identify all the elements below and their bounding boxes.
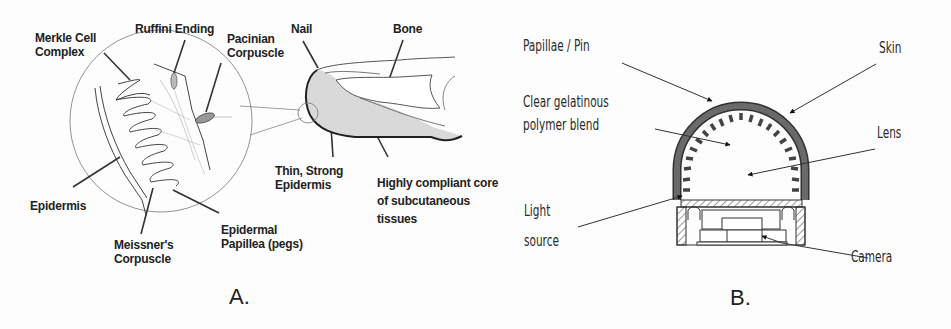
label-camera: Camera — [851, 246, 892, 269]
label-epidermal-papillea: Epidermal Papillea (pegs) — [221, 223, 303, 251]
fingertip-drawing — [298, 57, 462, 140]
label-compliant-core: Highly compliant core of subcutaneous ti… — [377, 174, 498, 228]
pacinian-corpuscle — [194, 111, 216, 125]
diagram-drawing — [0, 0, 951, 329]
sensor-drawing — [677, 106, 805, 245]
ruffini-ending — [171, 73, 177, 89]
label-bone: Bone — [393, 22, 422, 36]
label-clear-gelatinous-polymer: Clear gelatinous polymer blend — [523, 91, 609, 137]
label-ruffini-ending: Ruffini Ending — [135, 22, 214, 36]
label-pacinian-corpuscle: Pacinian Corpuscle — [227, 32, 284, 60]
panel-a-caption: A. — [229, 284, 250, 310]
label-papillae-pin: Papillae / Pin — [523, 35, 590, 58]
label-epidermis: Epidermis — [30, 199, 86, 213]
panel-b-caption: B. — [730, 285, 751, 311]
label-merkle-cell-complex: Merkle Cell Complex — [35, 31, 96, 59]
label-lens: Lens — [877, 122, 901, 145]
label-meissners-corpuscle: Meissner's Corpuscle — [114, 238, 174, 266]
label-thin-strong-epidermis: Thin, Strong Epidermis — [275, 164, 343, 192]
label-nail: Nail — [291, 22, 312, 36]
label-light-source: Light source — [524, 196, 559, 256]
figure-canvas: Merkle Cell Complex Ruffini Ending Pacin… — [0, 0, 951, 329]
label-skin: Skin — [879, 37, 901, 60]
